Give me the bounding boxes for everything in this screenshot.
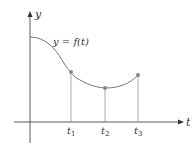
- y-axis-arrow-icon: [28, 11, 33, 17]
- curve-label: y = f(t): [52, 36, 89, 47]
- point-t2: [103, 86, 107, 90]
- function-graph-diagram: y t y = f(t) t1 t2 t3: [0, 0, 196, 149]
- point-t1: [69, 70, 73, 74]
- x-axis-label: t: [186, 116, 191, 129]
- graph-canvas: y t y = f(t) t1 t2 t3: [0, 0, 196, 149]
- point-t3: [136, 73, 140, 77]
- tick-label-t3: t3: [134, 125, 143, 138]
- x-axis-arrow-icon: [178, 120, 184, 125]
- tick-label-t1: t1: [67, 125, 76, 138]
- tick-label-t2: t2: [101, 125, 110, 138]
- y-axis-label: y: [34, 8, 42, 21]
